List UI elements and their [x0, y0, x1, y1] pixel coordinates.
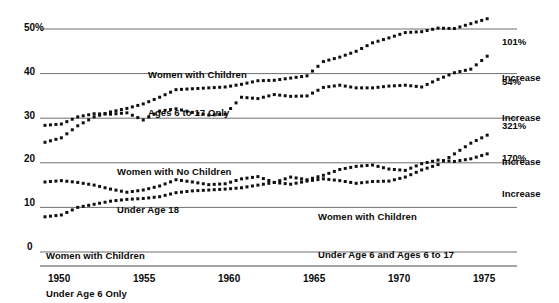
series-label-children-6-to-17-line2: Ages 6 to 17 Only [148, 107, 247, 120]
data-point [109, 200, 112, 203]
data-point [82, 182, 85, 185]
data-point [426, 167, 429, 170]
data-point [393, 168, 396, 171]
data-point [87, 118, 90, 121]
data-point [76, 181, 79, 184]
data-point [344, 54, 347, 57]
data-point [409, 31, 412, 34]
data-point [431, 160, 434, 163]
data-point [398, 168, 401, 171]
data-point [98, 185, 101, 188]
data-point [295, 95, 298, 98]
data-point [327, 59, 330, 62]
data-point [360, 181, 363, 184]
data-point [306, 74, 309, 77]
data-point [355, 182, 358, 185]
y-axis-tick-10: 10 [24, 197, 35, 208]
data-point [136, 116, 139, 119]
data-point [316, 65, 319, 68]
data-point [87, 183, 90, 186]
data-point [349, 85, 352, 88]
data-point [136, 104, 139, 107]
data-point [426, 83, 429, 86]
data-point [71, 180, 74, 183]
data-point [311, 92, 314, 95]
data-point [284, 182, 287, 185]
data-point [366, 86, 369, 89]
data-point [278, 78, 281, 81]
increase-label-1-pct: 101% [502, 36, 541, 48]
data-point [366, 164, 369, 167]
data-point [344, 167, 347, 170]
data-point [289, 95, 292, 98]
data-point [486, 55, 489, 58]
data-point [76, 206, 79, 209]
data-point [104, 113, 107, 116]
data-point [338, 179, 341, 182]
data-point [44, 124, 47, 127]
data-point [453, 71, 456, 74]
data-point [458, 159, 461, 162]
data-point [120, 108, 123, 111]
data-point [464, 69, 467, 72]
data-point [333, 84, 336, 87]
data-point [104, 201, 107, 204]
data-point [387, 168, 390, 171]
data-point [431, 28, 434, 31]
data-point [480, 19, 483, 22]
data-point [109, 113, 112, 116]
data-point [44, 215, 47, 218]
data-point [49, 139, 52, 142]
data-point [349, 181, 352, 184]
data-point [398, 33, 401, 36]
series-label-under-6-and-6-to-17-line2: Under Age 6 and Ages 6 to 17 [318, 249, 454, 262]
data-point [245, 177, 248, 180]
increase-label-4-word: Increase [502, 188, 541, 200]
data-point [262, 96, 265, 99]
data-point [387, 180, 390, 183]
data-point [71, 128, 74, 131]
data-point [355, 86, 358, 89]
data-point [431, 165, 434, 168]
data-point [251, 184, 254, 187]
data-point [486, 134, 489, 137]
data-point [377, 180, 380, 183]
data-point [311, 70, 314, 73]
data-point [295, 182, 298, 185]
data-point [469, 22, 472, 25]
data-point [382, 180, 385, 183]
data-point [437, 27, 440, 30]
data-point [284, 177, 287, 180]
data-point [382, 85, 385, 88]
data-point [109, 188, 112, 191]
data-point [289, 176, 292, 179]
data-point [300, 95, 303, 98]
data-point [306, 178, 309, 181]
data-point [469, 142, 472, 145]
data-point [420, 30, 423, 33]
data-point [469, 157, 472, 160]
data-point [453, 160, 456, 163]
data-point [60, 213, 63, 216]
data-point [256, 97, 259, 100]
data-point [366, 181, 369, 184]
data-point [65, 120, 68, 123]
data-point [404, 31, 407, 34]
data-point [300, 75, 303, 78]
data-point [486, 17, 489, 20]
series-label-no-children-line2: Under Age 18 [117, 204, 231, 217]
data-point [387, 85, 390, 88]
data-point [284, 77, 287, 80]
data-point [420, 85, 423, 88]
data-point [131, 105, 134, 108]
data-point [447, 160, 450, 163]
data-point [267, 182, 270, 185]
data-point [453, 152, 456, 155]
data-point [300, 177, 303, 180]
data-point [289, 77, 292, 80]
data-point [54, 180, 57, 183]
data-point [71, 118, 74, 121]
data-point [409, 167, 412, 170]
data-point [311, 177, 314, 180]
y-axis-tick-50: 50% [24, 22, 44, 33]
